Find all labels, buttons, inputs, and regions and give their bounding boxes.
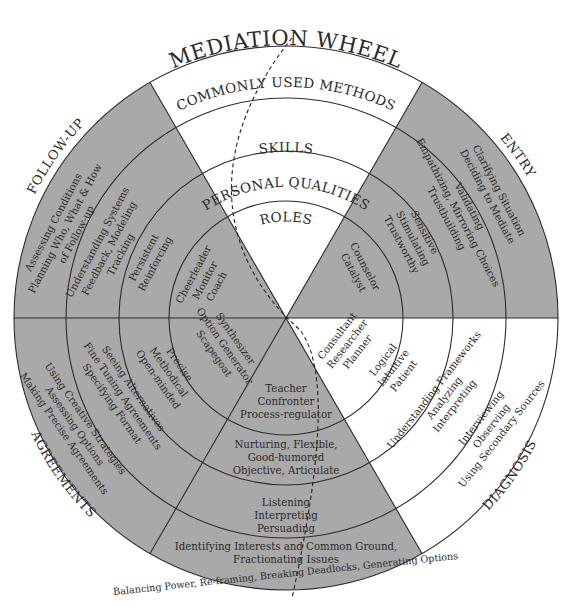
- sector-entry: [286, 82, 558, 318]
- band-label-qualities: PERSONAL QUALITIES: [199, 174, 373, 214]
- negotiation-role: Confronter: [258, 396, 315, 407]
- negotiation-quality: Objective, Articulate: [233, 465, 340, 476]
- mediation-wheel-diagram: MEDIATION WHEEL COMMONLY USED METHODS SK…: [0, 0, 566, 610]
- negotiation-method: Identifying Interests and Common Ground,: [175, 541, 398, 552]
- negotiation-skill: Interpreting: [254, 510, 318, 521]
- negotiation-skill: Persuading: [257, 523, 315, 534]
- negotiation-quality: Nurturing, Flexible,: [234, 439, 337, 450]
- negotiation-quality: Good-humored: [248, 452, 325, 463]
- negotiation-role: Teacher: [265, 383, 306, 394]
- band-label-skills: SKILLS: [258, 139, 314, 157]
- negotiation-skill: Listening: [262, 497, 311, 508]
- band-label-roles: ROLES: [258, 208, 314, 227]
- negotiation-skills: Listening Interpreting Persuading: [254, 497, 318, 534]
- wheel-title: MEDIATION WHEEL: [166, 26, 406, 73]
- negotiation-qualities: Nurturing, Flexible, Good-humored Object…: [233, 439, 340, 476]
- negotiation-role: Process-regulator: [240, 409, 332, 420]
- band-label-methods: COMMONLY USED METHODS: [174, 74, 399, 114]
- diagnosis-qualities: Logical Intuitive Patient: [365, 339, 421, 396]
